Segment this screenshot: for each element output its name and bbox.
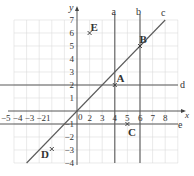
y-axis-arrow-icon: [75, 6, 79, 11]
point-label-A: A: [117, 72, 125, 84]
svg-text:8: 8: [163, 113, 168, 123]
svg-text:1: 1: [70, 93, 75, 103]
line-label-c: c: [161, 7, 166, 18]
svg-text:2: 2: [70, 80, 75, 90]
x-tick-neg: −5 −4 −3 −21: [1, 113, 51, 123]
svg-text:5: 5: [70, 41, 75, 51]
point-label-E: E: [91, 21, 98, 33]
svg-text:−1: −1: [64, 119, 74, 129]
origin-label: 0: [78, 112, 83, 122]
x-axis-label: x: [184, 110, 189, 120]
svg-text:2: 2: [88, 113, 93, 123]
y-axis-label: y: [68, 2, 74, 13]
line-label-d: d: [180, 79, 185, 90]
point-label-B: B: [140, 33, 148, 45]
point-label-C: C: [128, 126, 136, 138]
svg-text:4: 4: [113, 113, 118, 123]
svg-text:−3: −3: [64, 145, 74, 155]
svg-text:−4: −4: [64, 158, 74, 168]
line-label-a: a: [112, 6, 117, 17]
svg-text:7: 7: [151, 113, 156, 123]
point-labels: A B C D E: [41, 21, 148, 160]
coordinate-plane: a b c d e y x 7 6 5 4 3 2 1 −1 −2 −3 −4 …: [0, 0, 194, 176]
svg-text:4: 4: [70, 54, 75, 64]
line-label-b: b: [136, 6, 141, 17]
y-tick-labels: 7 6 5 4 3 2 1 −1 −2 −3 −4: [64, 15, 74, 168]
svg-text:5: 5: [125, 113, 130, 123]
point-label-D: D: [41, 148, 49, 160]
svg-text:3: 3: [100, 113, 105, 123]
svg-text:−2: −2: [64, 132, 74, 142]
svg-text:6: 6: [138, 113, 143, 123]
x-tick-labels: −5 −4 −3 −21 0 2 3 4 5 6 7 8: [1, 112, 168, 123]
svg-text:6: 6: [70, 28, 75, 38]
line-label-e: e: [178, 119, 183, 130]
svg-text:7: 7: [70, 15, 75, 25]
svg-text:3: 3: [70, 67, 75, 77]
